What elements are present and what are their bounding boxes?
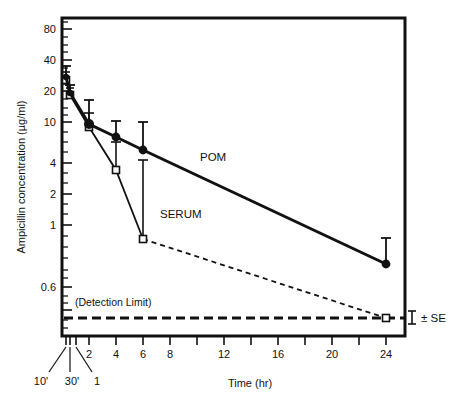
serum-series (62, 72, 390, 322)
detection-limit-label: (Detection Limit) (75, 296, 151, 308)
y-tick-label-20: 20 (44, 85, 56, 97)
se-legend: ± SE (408, 311, 446, 324)
x-early-label-10min: 10' (34, 375, 48, 387)
y-tick-label-80: 80 (44, 23, 56, 35)
serum-error-bars (62, 72, 148, 239)
y-tick-label-4: 4 (50, 157, 56, 169)
y-tick-label-0.6: 0.6 (41, 281, 56, 293)
x-early-label-1hr: 1 (94, 375, 100, 387)
y-tick-label-10: 10 (44, 116, 56, 128)
x-early-label-30min: 30' (65, 375, 79, 387)
y-tick-label-40: 40 (44, 54, 56, 66)
y-axis-title: Ampicillin concentration (µg/ml) (15, 100, 27, 253)
plot-border (62, 18, 405, 336)
pom-error-bars (61, 66, 391, 264)
pom-series (61, 66, 391, 268)
x-axis-title: Time (hr) (228, 377, 272, 389)
x-tick-label-24: 24 (380, 348, 392, 360)
series-label-serum: SERUM (160, 208, 202, 220)
se-legend-label: ± SE (421, 312, 446, 324)
serum-markers (63, 77, 390, 322)
series-label-pom: POM (200, 151, 226, 163)
x-tick-label-4: 4 (113, 348, 119, 360)
x-tick-label-8: 8 (167, 348, 173, 360)
x-tick-label-20: 20 (326, 348, 338, 360)
x-tick-label-2: 2 (86, 348, 92, 360)
y-tick-label-1: 1 (50, 219, 56, 231)
x-tick-label-12: 12 (218, 348, 230, 360)
se-error-bar-icon (408, 311, 416, 324)
y-tick-label-2: 2 (50, 188, 56, 200)
x-tick-label-16: 16 (272, 348, 284, 360)
x-tick-label-6: 6 (140, 348, 146, 360)
figure-container: 80 40 20 10 4 2 1 0.6 Ampicillin concent… (0, 0, 455, 402)
pharmacokinetic-chart: 80 40 20 10 4 2 1 0.6 Ampicillin concent… (0, 0, 455, 402)
plot-frame (62, 18, 405, 336)
serum-line-dashed (143, 239, 386, 318)
